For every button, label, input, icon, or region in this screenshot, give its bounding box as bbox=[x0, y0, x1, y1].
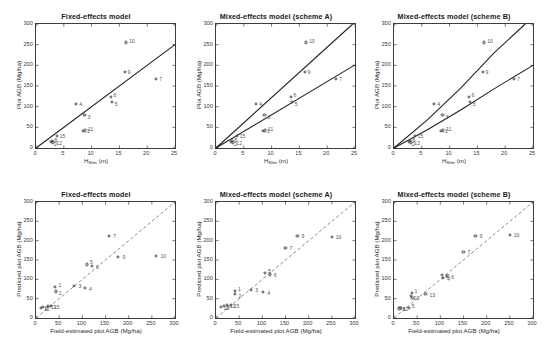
y-tick-label: 200 bbox=[23, 61, 35, 67]
x-axis-label: H80m (m) bbox=[6, 157, 186, 164]
data-point-label: 3 bbox=[255, 287, 258, 293]
x-tick-label: 5 bbox=[241, 148, 244, 156]
data-point-label: 10 bbox=[514, 232, 520, 238]
x-tick-label: 10 bbox=[87, 148, 93, 156]
plot-area bbox=[35, 23, 176, 149]
data-point-label: 1 bbox=[415, 288, 418, 294]
plot-canvas bbox=[216, 202, 355, 318]
x-axis-label: Field-estimated plot AGB (Mg/ha) bbox=[186, 327, 366, 334]
y-axis-label: Predicted plot AGB (Mg/ha) bbox=[373, 201, 380, 317]
x-axis-label: Field-estimated plot AGB (Mg/ha) bbox=[364, 327, 544, 334]
plot-canvas bbox=[394, 24, 533, 148]
data-point-label: 7 bbox=[289, 245, 292, 251]
y-tick-label: 0 bbox=[210, 314, 215, 320]
panel-top-left: Fixed-effects model 05101520250501001502… bbox=[6, 12, 186, 180]
y-tick-label: 0 bbox=[388, 144, 393, 150]
y-tick-label: 100 bbox=[23, 275, 35, 281]
regression-line bbox=[394, 24, 525, 148]
y-tick-label: 150 bbox=[23, 82, 35, 88]
y-tick-label: 300 bbox=[203, 20, 215, 26]
data-point-label: 4 bbox=[267, 290, 270, 296]
data-point-label: 11 bbox=[88, 126, 93, 132]
x-tick-label: 20 bbox=[323, 148, 329, 156]
x-tick-label: 300 bbox=[169, 318, 178, 326]
y-tick-label: 300 bbox=[203, 198, 215, 204]
y-tick-label: 100 bbox=[203, 103, 215, 109]
y-tick-label: 250 bbox=[381, 217, 393, 223]
data-point-label: 10 bbox=[160, 253, 166, 259]
regression-line bbox=[36, 45, 175, 148]
data-point-label: 7 bbox=[467, 249, 470, 255]
y-tick-label: 200 bbox=[23, 237, 35, 243]
y-tick-label: 150 bbox=[203, 82, 215, 88]
identity-line bbox=[216, 202, 355, 318]
panel-bottom-left: Fixed-effects model 05010015020025030005… bbox=[6, 190, 186, 358]
x-tick-label: 250 bbox=[504, 318, 513, 326]
data-point-label: 15 bbox=[60, 133, 66, 139]
plot-area bbox=[393, 201, 534, 319]
data-point-label: 11 bbox=[445, 273, 450, 279]
data-point-label: 6 bbox=[114, 92, 117, 98]
y-tick-label: 50 bbox=[27, 295, 35, 301]
y-tick-label: 250 bbox=[203, 217, 215, 223]
y-tick-label: 50 bbox=[207, 295, 215, 301]
y-tick-label: 300 bbox=[381, 198, 393, 204]
x-axis-label: Field-estimated plot AGB (Mg/ha) bbox=[6, 327, 186, 334]
x-tick-label: 150 bbox=[100, 318, 109, 326]
x-tick-label: 200 bbox=[481, 318, 490, 326]
data-point-label: 1 bbox=[238, 286, 241, 292]
y-tick-label: 250 bbox=[23, 217, 35, 223]
data-point-label: 12 bbox=[236, 140, 242, 146]
y-tick-label: 50 bbox=[385, 295, 393, 301]
data-point-label: 12 bbox=[56, 140, 62, 146]
x-tick-label: 20 bbox=[143, 148, 149, 156]
data-point-label: 10 bbox=[336, 234, 342, 240]
y-tick-label: 250 bbox=[23, 41, 35, 47]
figure-root: Fixed-effects model 05101520250501001502… bbox=[0, 0, 545, 358]
data-point-label: 9 bbox=[308, 69, 311, 75]
y-tick-label: 50 bbox=[27, 123, 35, 129]
data-point-label: 4 bbox=[259, 101, 262, 107]
x-tick-label: 10 bbox=[445, 148, 451, 156]
x-tick-label: 25 bbox=[171, 148, 177, 156]
y-tick-label: 100 bbox=[23, 103, 35, 109]
y-tick-label: 0 bbox=[388, 314, 393, 320]
y-axis-label: Plot AGB (Mg/ha) bbox=[15, 23, 22, 147]
plot-canvas bbox=[36, 24, 175, 148]
y-tick-label: 50 bbox=[385, 123, 393, 129]
x-axis-label: H80m (m) bbox=[186, 157, 366, 164]
data-point-label: 2 bbox=[59, 290, 62, 296]
y-tick-label: 150 bbox=[381, 82, 393, 88]
x-tick-label: 300 bbox=[527, 318, 536, 326]
plot-area bbox=[215, 201, 356, 319]
x-tick-label: 25 bbox=[351, 148, 357, 156]
y-tick-label: 200 bbox=[381, 237, 393, 243]
y-axis-label: Predicted plot AGB (Mg/ha) bbox=[15, 201, 22, 317]
data-point-label: 7 bbox=[517, 76, 520, 82]
data-point-label: 12 bbox=[402, 306, 408, 312]
y-tick-label: 100 bbox=[381, 103, 393, 109]
data-point-label: 3 bbox=[445, 114, 448, 120]
data-point-label: 5 bbox=[412, 303, 415, 309]
y-axis-label: Plot AGB (Mg/ha) bbox=[195, 23, 202, 147]
x-tick-label: 100 bbox=[77, 318, 86, 326]
identity-line bbox=[36, 202, 175, 318]
data-point-label: 5 bbox=[473, 101, 476, 107]
panel-top-middle: Mixed-effects model (scheme A) 051015202… bbox=[186, 12, 366, 180]
data-point-label: 3 bbox=[78, 283, 81, 289]
data-point-label: 15 bbox=[240, 133, 246, 139]
y-tick-label: 150 bbox=[203, 256, 215, 262]
plot-area bbox=[35, 201, 176, 319]
data-point-label: 9 bbox=[128, 69, 131, 75]
data-point-label: 13 bbox=[429, 292, 435, 298]
x-tick-label: 50 bbox=[55, 318, 61, 326]
x-tick-label: 250 bbox=[146, 318, 155, 326]
y-tick-label: 0 bbox=[30, 314, 35, 320]
y-tick-label: 100 bbox=[381, 275, 393, 281]
plot-canvas bbox=[216, 24, 355, 148]
x-tick-label: 100 bbox=[435, 318, 444, 326]
data-point-label: 4 bbox=[79, 101, 82, 107]
data-point-label: 11 bbox=[268, 126, 273, 132]
x-tick-label: 200 bbox=[303, 318, 312, 326]
y-tick-label: 200 bbox=[203, 237, 215, 243]
